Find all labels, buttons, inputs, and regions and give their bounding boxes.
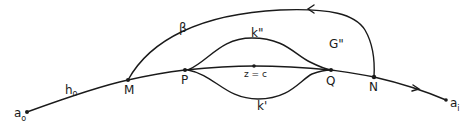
point-P — [183, 68, 187, 72]
main-path-h0 — [27, 66, 446, 112]
point-N — [372, 75, 376, 79]
k-upper-loop — [188, 38, 331, 70]
label-N: N — [369, 80, 378, 94]
point-M — [126, 78, 130, 82]
label-h0: ho — [65, 83, 78, 98]
label-ai: ai — [450, 96, 460, 113]
label-a0: ao — [14, 106, 26, 123]
arrow-beta-icon — [308, 5, 314, 13]
label-k-lower: k' — [257, 99, 267, 113]
point-zc — [252, 64, 256, 68]
label-beta: β — [179, 21, 187, 35]
label-M: M — [124, 83, 134, 97]
point-ai — [444, 98, 448, 102]
label-k-upper: k" — [251, 26, 263, 40]
point-Q — [329, 68, 333, 72]
label-Q: Q — [326, 74, 335, 88]
label-P: P — [181, 73, 188, 87]
contour-diagram: ao ai ho M P Q N z = c β k" k' G" — [0, 0, 474, 125]
label-zc: z = c — [244, 69, 267, 79]
label-G: G" — [329, 37, 344, 51]
